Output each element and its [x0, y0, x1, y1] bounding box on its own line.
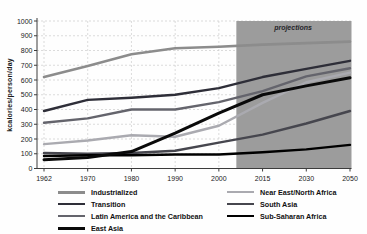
- x-tick-label: 1962: [36, 175, 52, 182]
- legend-item-near-east-north-africa: Near East/North Africa: [227, 186, 336, 198]
- legend-swatch: [58, 227, 85, 230]
- x-tick-label: 2000: [211, 175, 227, 182]
- legend-label: Sub-Saharan Africa: [260, 212, 326, 221]
- legend-swatch: [58, 203, 85, 205]
- y-tick-label: 300: [21, 121, 33, 128]
- legend-item-industrialized: Industrialized: [58, 186, 203, 198]
- y-tick-label: 200: [21, 136, 33, 143]
- legend-item-south-asia: South Asia: [227, 198, 336, 210]
- legend-swatch: [227, 191, 254, 193]
- y-tick-label: 0: [29, 165, 33, 172]
- legend-item-sub-saharan-africa: Sub-Saharan Africa: [227, 210, 336, 222]
- x-tick-label: 1980: [124, 175, 140, 182]
- projections-label: projections: [274, 24, 312, 31]
- legend-swatch: [227, 215, 254, 217]
- y-tick-label: 600: [21, 77, 33, 84]
- legend-swatch: [58, 215, 85, 217]
- x-tick-label: 1970: [80, 175, 96, 182]
- y-tick-label: 1000: [17, 18, 33, 25]
- legend-label: East Asia: [91, 224, 123, 233]
- legend-swatch: [227, 203, 254, 205]
- legend-label: Transition: [91, 200, 125, 209]
- legend-item-transition: Transition: [58, 198, 203, 210]
- x-tick-label: 2015: [255, 175, 271, 182]
- y-tick-label: 900: [21, 32, 33, 39]
- y-tick-label: 500: [21, 91, 33, 98]
- y-tick-label: 100: [21, 150, 33, 157]
- legend-item-latin-america-and-the-caribbean: Latin America and the Caribbean: [58, 210, 203, 222]
- legend-column: IndustrializedTransitionLatin America an…: [58, 186, 203, 234]
- y-tick-label: 800: [21, 47, 33, 54]
- legend-label: South Asia: [260, 200, 297, 209]
- x-tick-label: 2030: [298, 175, 314, 182]
- x-tick-label: 2050: [342, 175, 358, 182]
- legend-item-east-asia: East Asia: [58, 222, 203, 234]
- legend-label: Near East/North Africa: [260, 188, 336, 197]
- y-tick-label: 700: [21, 62, 33, 69]
- y-tick-label: 400: [21, 106, 33, 113]
- legend-label: Industrialized: [91, 188, 137, 197]
- chart-legend: IndustrializedTransitionLatin America an…: [58, 186, 336, 234]
- x-tick-label: 1990: [167, 175, 183, 182]
- legend-swatch: [58, 191, 85, 194]
- chart-figure: kcalories/person/day 0100200300400500600…: [0, 0, 367, 234]
- legend-column: Near East/North AfricaSouth AsiaSub-Saha…: [227, 186, 336, 234]
- legend-label: Latin America and the Caribbean: [91, 212, 203, 221]
